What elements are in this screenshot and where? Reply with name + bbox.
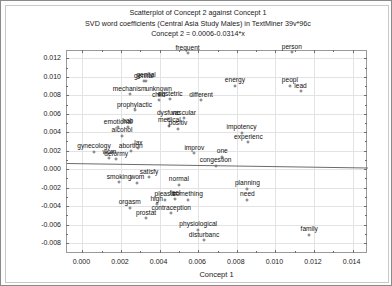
scatter-point [129,150,132,153]
x-axis-tick-minor [333,251,334,253]
scatter-point-label: high [150,195,162,202]
scatter-point [164,198,167,201]
x-axis-tick [160,250,161,253]
scatter-point-label: genital [134,72,153,79]
x-axis-tick [275,50,276,53]
y-axis-tick [66,114,69,115]
scatter-point-label: impotency [227,123,257,130]
y-axis-tick [364,243,367,244]
y-axis-tick [66,77,69,78]
x-axis-tick-minor [295,50,296,52]
scatter-point [118,181,121,184]
x-axis-tick-label: 0.008 [227,258,245,265]
y-axis-tick [66,151,69,152]
scatter-point [136,181,139,184]
y-axis-tick-minor [66,86,68,87]
y-axis-tick-minor [365,197,367,198]
y-axis-tick-label: -0.006 [41,220,61,227]
x-axis-tick [82,50,83,53]
scatter-point-label: different [189,91,213,98]
y-axis-tick-label: 0.002 [43,146,61,153]
y-axis-tick-minor [365,105,367,106]
y-axis-tick [66,58,69,59]
x-axis-tick [121,50,122,53]
y-axis-tick-label: 0.012 [43,54,61,61]
scatter-point-label: normal [169,175,189,182]
scatter-point-label: congestion [200,156,232,163]
x-axis-tick-minor [102,50,103,52]
y-axis-tick-label: -0.002 [41,183,61,190]
y-axis-tick [66,169,69,170]
x-axis-tick-label: 0.014 [343,258,361,265]
scatter-point [200,99,203,102]
scatter-point-label: need [240,190,255,197]
y-axis-tick-minor [365,234,367,235]
scatter-point-label: disturbanc [189,231,219,238]
scatter-point-label: mechanism [113,85,147,92]
regression-line [67,163,368,169]
x-axis-tick-minor [140,251,141,253]
y-axis-tick [66,188,69,189]
graph-window: Scatterplot of Concept 2 against Concept… [0,0,392,286]
scatter-point-label: physiological [179,220,217,227]
page-title: Scatterplot of Concept 2 against Concept… [6,8,389,19]
y-axis-tick-minor [66,141,68,142]
grid-line-horizontal [67,77,366,78]
x-axis-tick [314,50,315,53]
scatter-point-label: orgasm [119,198,141,205]
scatter-point-label: energy [225,76,245,83]
x-axis-tick [160,50,161,53]
x-axis-title: Concept 1 [66,270,367,279]
scatter-point [115,158,118,161]
x-axis-tick-minor [179,251,180,253]
y-axis-tick-minor [365,123,367,124]
y-axis-tick-minor [365,68,367,69]
scatter-point [203,239,206,242]
y-axis-tick-minor [66,234,68,235]
scatter-point [145,217,148,220]
scatter-point-label: frequent [175,44,199,51]
scatter-point [246,198,249,201]
chart-title-block: Scatterplot of Concept 2 against Concept… [6,8,389,40]
x-axis-tick-minor [218,251,219,253]
grid-line-horizontal [67,169,366,170]
scatter-point-label: prostat [136,209,156,216]
y-axis-tick-minor [66,197,68,198]
scatter-point-label: one [217,147,228,154]
scatter-point-label: planning [235,179,260,186]
y-axis-tick [364,169,367,170]
x-axis-tick-minor [333,50,334,52]
scatter-point [170,212,173,215]
x-axis-tick [275,250,276,253]
scatter-point-label: lead [294,82,306,89]
x-axis-tick-label: 0.006 [188,258,206,265]
x-axis-tick-minor [256,251,257,253]
y-axis-tick-minor [365,160,367,161]
x-axis-tick-minor [140,50,141,52]
y-axis-tick-minor [66,160,68,161]
y-axis-tick-minor [365,215,367,216]
scatter-point [193,152,196,155]
y-axis-tick [364,114,367,115]
scatter-point-label: smoking [107,173,132,180]
y-axis-tick-label: 0.010 [43,72,61,79]
scatter-point-label: experienc [234,133,263,140]
scatter-point-label: deformy [104,150,128,157]
x-axis-tick-label: 0.010 [266,258,284,265]
y-axis-tick-minor [66,105,68,106]
grid-line-horizontal [67,188,366,189]
scatter-point-label: alcohol [112,126,133,133]
scatter-point [169,98,172,101]
scatter-point [177,183,180,186]
y-axis-tick-minor [66,123,68,124]
chart-subtitle: SVD word coefficients (Central Asia Stud… [6,19,389,30]
scatter-point [128,206,131,209]
grid-line-horizontal [67,243,366,244]
scatter-point-label: person [282,43,302,50]
scatter-point-label: vascular [171,109,196,116]
y-axis-tick-label: 0.006 [43,109,61,116]
scatter-point [174,197,177,200]
x-axis-tick-label: 0.004 [150,258,168,265]
x-axis-tick [121,250,122,253]
scatter-point-label: positiv [169,119,188,126]
